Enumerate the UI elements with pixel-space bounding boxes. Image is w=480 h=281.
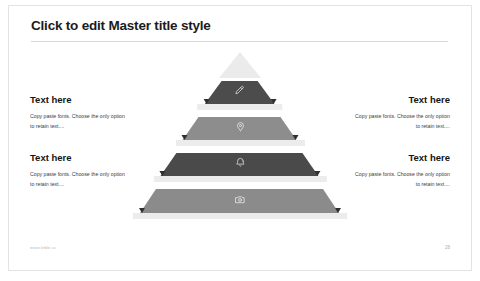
location-pin-icon: [235, 121, 246, 132]
footer-page-number: 28: [430, 245, 450, 250]
pyramid-layer-face: [203, 78, 278, 111]
footer-url[interactable]: www.leble.cc: [30, 245, 57, 250]
pyramid-layer-face: [158, 150, 321, 183]
pyramid-apex: [219, 52, 261, 78]
page-title[interactable]: Click to edit Master title style: [31, 18, 431, 34]
bell-icon: [235, 157, 246, 168]
pyramid-layer-3[interactable]: [158, 150, 321, 183]
slide-canvas: Click to edit Master title style Text he…: [0, 0, 480, 281]
pyramid-layer-shelf: [176, 140, 305, 146]
pyramid-layer-shelf: [153, 176, 326, 182]
pyramid-layer-2[interactable]: [181, 114, 300, 147]
text-block-body-line1: Copy paste fonts. Choose the only option: [355, 171, 450, 177]
pyramid-layer-face: [138, 186, 342, 220]
pyramid-layer-shelf: [133, 213, 347, 219]
title-block: Click to edit Master title style: [31, 18, 431, 34]
title-divider: [31, 41, 448, 42]
camera-icon: [235, 194, 246, 205]
text-block-body-line1: Copy paste fonts. Choose the only option: [355, 113, 450, 119]
pyramid-layer-shelf: [198, 104, 283, 110]
text-block-body-line1: Copy paste fonts. Choose the only option: [30, 171, 125, 177]
pyramid-layer-4[interactable]: [138, 186, 342, 220]
pyramid-layer-1[interactable]: [203, 78, 278, 111]
pyramid-layer-face: [181, 114, 300, 147]
pyramid-diagram: [138, 52, 342, 234]
text-block-body-line1: Copy paste fonts. Choose the only option: [30, 113, 125, 119]
pencil-icon: [234, 85, 245, 96]
